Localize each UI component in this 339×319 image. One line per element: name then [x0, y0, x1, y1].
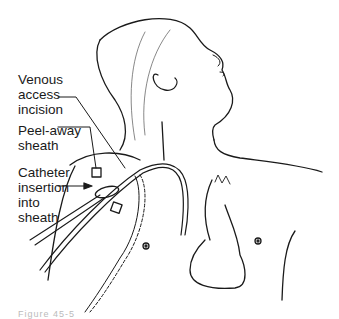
label-venous-access-incision: Venous access incision: [18, 72, 63, 117]
figure-caption: Figure 45-5: [18, 309, 75, 319]
medical-illustration: Venous access incision Peel-away sheath …: [0, 0, 339, 319]
catheter-insertion-drawing: [0, 0, 339, 319]
label-catheter-insertion: Catheter insertion into sheath: [18, 165, 70, 225]
label-peel-away-sheath: Peel-away sheath: [18, 123, 81, 153]
